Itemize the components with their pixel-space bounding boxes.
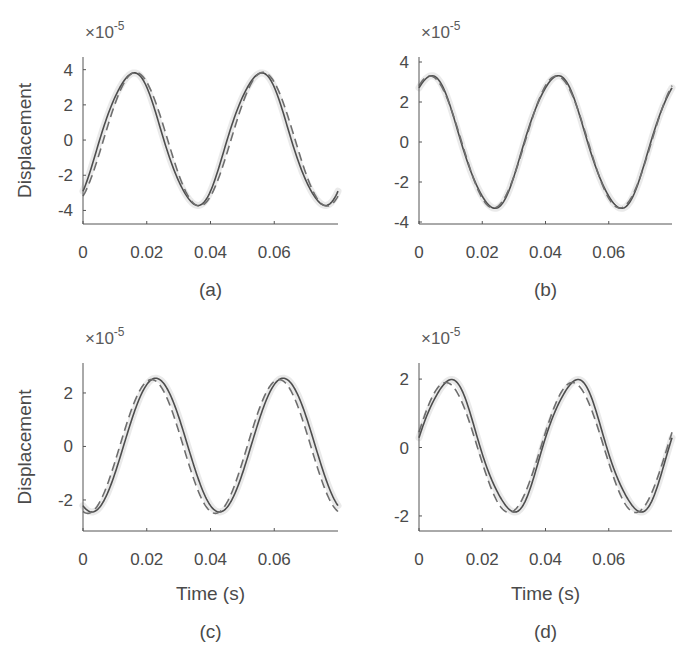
x-tick-label: 0.02 xyxy=(466,550,499,569)
x-tick-label: 0.04 xyxy=(529,550,562,569)
y-tick-label: 0 xyxy=(64,131,73,150)
x-tick-label: 0.02 xyxy=(466,243,499,262)
y-tick-label: 0 xyxy=(400,133,409,152)
y-tick-label: -2 xyxy=(58,491,73,510)
y-multiplier-label: ×10-5 xyxy=(85,19,125,42)
y-tick-label: -2 xyxy=(58,166,73,185)
y-tick-label: 4 xyxy=(64,61,73,80)
panel-label: (b) xyxy=(534,279,557,300)
panel-label: (c) xyxy=(199,621,221,642)
y-tick-label: -4 xyxy=(394,213,409,232)
x-tick-label: 0.06 xyxy=(592,550,625,569)
x-tick-label: 0.04 xyxy=(194,550,227,569)
y-tick-label: 2 xyxy=(64,384,73,403)
x-axis-title: Time (s) xyxy=(511,583,580,604)
plot-lines xyxy=(419,380,672,513)
y-multiplier-label: ×10-5 xyxy=(85,325,125,348)
y-multiplier-label: ×10-5 xyxy=(421,19,461,42)
panel-d: 00.020.040.06-202×10-5Time (s)(d) xyxy=(394,325,672,642)
halo-band xyxy=(83,73,338,206)
halo-band xyxy=(419,76,672,209)
x-tick-label: 0 xyxy=(78,243,87,262)
axes: 00.020.040.06-202×10-5DisplacementTime (… xyxy=(14,325,338,642)
axes: 00.020.040.06-4-2024×10-5Displacement(a) xyxy=(14,19,338,300)
panel-label: (d) xyxy=(534,621,557,642)
plot-lines xyxy=(83,72,338,206)
panel-a: 00.020.040.06-4-2024×10-5Displacement(a) xyxy=(14,19,338,300)
x-tick-label: 0.04 xyxy=(529,243,562,262)
y-tick-label: -4 xyxy=(58,201,73,220)
plot-lines xyxy=(83,378,338,513)
y-tick-label: 4 xyxy=(400,53,409,72)
x-tick-label: 0.02 xyxy=(130,243,163,262)
panel-b: 00.020.040.06-4-2024×10-5(b) xyxy=(394,19,672,300)
x-axis-title: Time (s) xyxy=(176,583,245,604)
figure: 00.020.040.06-4-2024×10-5Displacement(a)… xyxy=(0,0,686,660)
y-axis-title: Displacement xyxy=(14,82,35,198)
x-tick-label: 0.06 xyxy=(592,243,625,262)
y-tick-label: 2 xyxy=(400,370,409,389)
y-tick-label: 0 xyxy=(64,437,73,456)
y-tick-label: 2 xyxy=(64,96,73,115)
y-tick-label: 0 xyxy=(400,439,409,458)
x-tick-label: 0.04 xyxy=(194,243,227,262)
x-tick-label: 0.02 xyxy=(130,550,163,569)
panel-c: 00.020.040.06-202×10-5DisplacementTime (… xyxy=(14,325,338,642)
axes: 00.020.040.06-4-2024×10-5(b) xyxy=(394,19,672,300)
halo-band xyxy=(419,380,672,513)
y-tick-label: -2 xyxy=(394,173,409,192)
x-tick-label: 0.06 xyxy=(258,550,291,569)
y-tick-label: -2 xyxy=(394,507,409,526)
panel-label: (a) xyxy=(199,279,222,300)
x-tick-label: 0 xyxy=(414,243,423,262)
plot-lines xyxy=(419,76,672,209)
y-multiplier-label: ×10-5 xyxy=(421,325,461,348)
y-tick-label: 2 xyxy=(400,93,409,112)
y-axis-title: Displacement xyxy=(14,389,35,505)
x-tick-label: 0 xyxy=(78,550,87,569)
x-tick-label: 0.06 xyxy=(258,243,291,262)
x-tick-label: 0 xyxy=(414,550,423,569)
